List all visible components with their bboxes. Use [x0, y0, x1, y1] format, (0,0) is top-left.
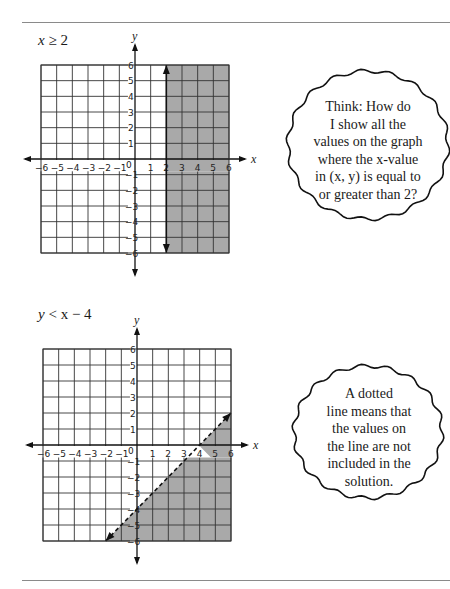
thought-bubble-2-text: A dotted line means that the values on t…	[310, 385, 428, 490]
thought-bubble-2	[0, 0, 450, 589]
bubble-2-line-2: line means that	[310, 403, 428, 421]
bubble-2-line-5: included in the	[310, 455, 428, 473]
bubble-2-line-4: the line are not	[310, 438, 428, 456]
bubble-2-line-3: the values on	[310, 420, 428, 438]
bubble-2-line-1: A dotted	[310, 385, 428, 403]
bubble-2-line-6: solution.	[310, 473, 428, 491]
